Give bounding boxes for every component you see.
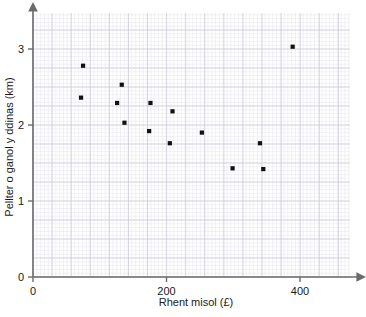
data-point [261,167,265,171]
y-axis-title: Pellter o ganol y ddinas (km) [3,77,15,216]
data-point [168,141,172,145]
data-point [120,83,124,87]
data-point [200,131,204,135]
data-point [81,64,85,68]
data-point [258,141,262,145]
chart-canvas: 0200400 0123 Rhent misol (£) Pellter o g… [0,0,366,317]
data-point [148,101,152,105]
data-point [291,45,295,49]
y-tick-label: 3 [18,43,24,55]
y-tick-label: 2 [18,119,24,131]
scatter-chart: 0200400 0123 Rhent misol (£) Pellter o g… [0,0,366,317]
data-point [230,166,234,170]
data-point [122,121,126,125]
x-tick-label: 0 [30,285,36,297]
y-tick-label: 1 [18,195,24,207]
x-tick-label: 400 [291,285,309,297]
data-point [115,101,119,105]
y-tick-label: 0 [18,271,24,283]
data-point [79,96,83,100]
x-axis-title: Rhent misol (£) [159,296,234,308]
data-point [147,129,151,133]
data-point [170,109,174,113]
